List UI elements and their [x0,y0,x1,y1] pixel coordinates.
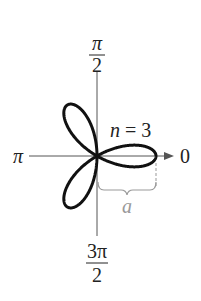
angle-label-bottom-den: 2 [92,264,102,286]
angle-label-left: π [13,145,24,167]
brace-icon [98,182,156,195]
equation-label: n = 3 [110,119,151,141]
length-label-a: a [122,195,132,217]
polar-diagram: a n = 3 π 2 π 0 3π 2 [0,0,201,301]
axis-arrow-icon [164,152,174,160]
angle-label-right: 0 [180,145,190,167]
angle-label-bottom-num: 3π [87,240,107,262]
angle-label-top-den: 2 [92,54,102,76]
angle-label-top-num: π [92,32,103,54]
